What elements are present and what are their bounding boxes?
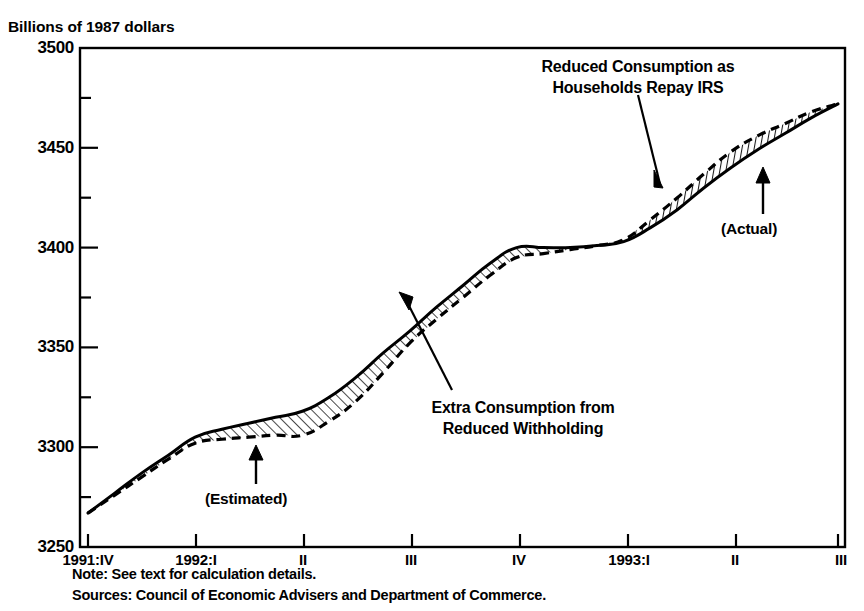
shaded-band-group [88,104,838,513]
chart-figure: Billions of 1987 dollars 3500 3450 3400 … [0,0,864,611]
shaded-band-reduced-consumption [88,104,838,513]
chart-plot-area [0,0,864,611]
arrow-actual-head [756,167,770,183]
arrow-estimated-head [249,445,263,460]
y-axis-ticks [80,98,98,497]
leader-reduced-consumption-head [654,170,663,188]
leader-reduced-consumption [638,95,660,184]
x-axis-ticks [88,534,838,547]
annotation-leaders [249,95,770,484]
